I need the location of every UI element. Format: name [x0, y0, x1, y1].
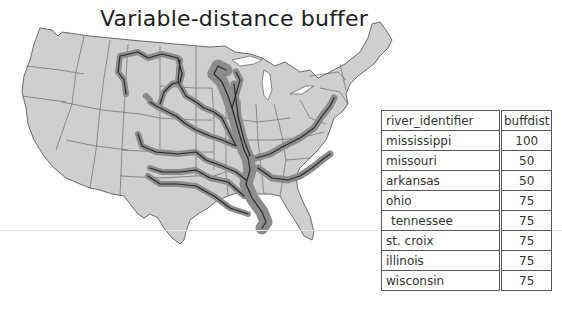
- table-row: arkansas 50: [382, 171, 552, 191]
- river-name-cell: mississippi: [382, 131, 501, 151]
- buffdist-cell: 100: [501, 131, 552, 151]
- buffdist-cell: 75: [501, 231, 552, 251]
- river-name-cell: missouri: [382, 151, 501, 171]
- table-row: ohio 75: [382, 191, 552, 211]
- river-name-cell: st. croix: [382, 231, 501, 251]
- page-title: Variable-distance buffer: [100, 6, 368, 31]
- table-row: tennessee 75: [382, 211, 552, 231]
- river-name-cell: tennessee: [382, 211, 501, 231]
- buffdist-cell: 75: [501, 251, 552, 271]
- river-name-cell: ohio: [382, 191, 501, 211]
- river-name-cell: wisconsin: [382, 271, 501, 291]
- table-header-row: river_identifier buffdist: [382, 111, 552, 131]
- buffdist-cell: 75: [501, 271, 552, 291]
- buffdist-cell: 75: [501, 211, 552, 231]
- column-header-buffdist: buffdist: [501, 111, 552, 131]
- river-name-cell: illinois: [382, 251, 501, 271]
- river-name-cell: arkansas: [382, 171, 501, 191]
- buffdist-cell: 75: [501, 191, 552, 211]
- table-row: illinois 75: [382, 251, 552, 271]
- table-row: mississippi 100: [382, 131, 552, 151]
- buffdist-cell: 50: [501, 151, 552, 171]
- table-row: wisconsin 75: [382, 271, 552, 291]
- table-row: missouri 50: [382, 151, 552, 171]
- attribute-table: river_identifier buffdist mississippi 10…: [381, 110, 552, 291]
- column-header-river-identifier: river_identifier: [382, 111, 501, 131]
- table-row: st. croix 75: [382, 231, 552, 251]
- buffdist-cell: 50: [501, 171, 552, 191]
